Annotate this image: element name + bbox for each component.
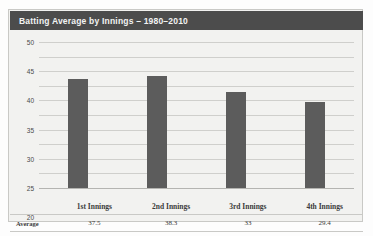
bar <box>68 79 88 189</box>
data-table: 1st Innings2nd Innings3rd Innings4th Inn… <box>10 198 363 232</box>
chart-screenshot: Batting Average by Innings – 1980–2010 5… <box>0 0 373 236</box>
chart-panel: Batting Average by Innings – 1980–2010 5… <box>8 9 363 222</box>
category-label: 2nd Innings <box>133 202 210 211</box>
table-row-categories: 1st Innings2nd Innings3rd Innings4th Inn… <box>10 198 363 215</box>
y-axis-tick-label: 25 <box>27 185 34 192</box>
category-label: 4th Innings <box>286 202 363 211</box>
table-row-average: Average 37.538.33329.4 <box>10 215 363 232</box>
bar-slot <box>197 42 276 188</box>
plot-area: 50454035302520151050 <box>9 32 364 198</box>
bar-series <box>39 42 354 188</box>
bar <box>305 102 325 188</box>
value-label: 37.5 <box>56 219 133 227</box>
plot-canvas: 50454035302520151050 <box>39 42 354 188</box>
chart-title: Batting Average by Innings – 1980–2010 <box>10 16 188 26</box>
chart-title-bar: Batting Average by Innings – 1980–2010 <box>10 11 363 30</box>
bar-slot <box>275 42 354 188</box>
value-label: 33 <box>210 219 287 227</box>
bar-slot <box>118 42 197 188</box>
bar <box>147 76 167 188</box>
axis-baseline: 0 <box>39 188 354 189</box>
y-axis-tick-label: 30 <box>27 155 34 162</box>
category-label: 1st Innings <box>56 202 133 211</box>
category-label: 3rd Innings <box>210 202 287 211</box>
bar-slot <box>39 42 118 188</box>
value-label: 38.3 <box>133 219 210 227</box>
bar <box>226 92 246 188</box>
y-axis-tick-label: 45 <box>27 68 34 75</box>
value-label: 29.4 <box>286 219 363 227</box>
y-axis-tick-label: 40 <box>27 97 34 104</box>
y-axis-tick-label: 50 <box>27 39 34 46</box>
series-row-label: Average <box>10 220 56 227</box>
value-cells: 37.538.33329.4 <box>56 219 363 227</box>
y-axis-tick-label: 35 <box>27 126 34 133</box>
category-cells: 1st Innings2nd Innings3rd Innings4th Inn… <box>56 202 363 211</box>
